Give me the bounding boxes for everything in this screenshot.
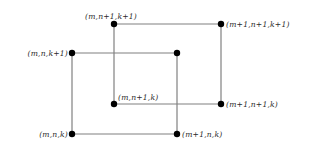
- lattice-vertex-back-top-right: [218, 21, 224, 27]
- lattice-vertex-back-top-left: [111, 21, 117, 27]
- lattice-vertex-front-bottom-left: [69, 131, 75, 137]
- lattice-vertex-front-top-right: [174, 50, 180, 56]
- vertex-label-back-top-left: (m,n+1,k+1): [85, 13, 137, 21]
- vertex-label-front-top-left: (m,n,k+1): [28, 50, 68, 58]
- lattice-vertex-back-bottom-left: [111, 101, 117, 107]
- lattice-vertex-front-top-left: [69, 50, 75, 56]
- lattice-vertex-front-bottom-right: [174, 131, 180, 137]
- lattice-vertex-back-bottom-right: [218, 101, 224, 107]
- vertex-label-back-bottom-left: (m,n+1,k): [118, 94, 158, 102]
- edges-group: [72, 24, 221, 134]
- vertex-label-back-top-right: (m+1,n+1,k+1): [226, 21, 290, 29]
- vertex-label-front-bottom-left: (m,n,k): [39, 131, 68, 139]
- vertices-group: [69, 21, 224, 137]
- vertex-label-front-bottom-right: (m+1,n,k): [182, 131, 222, 139]
- lattice-diagram: (m,n,k)(m+1,n,k)(m,n,k+1)(m,n+1,k)(m+1,n…: [0, 0, 312, 150]
- vertex-label-back-bottom-right: (m+1,n+1,k): [226, 101, 278, 109]
